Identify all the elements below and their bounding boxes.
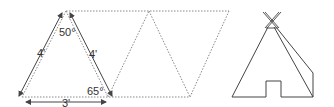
teepee-diagram [0,0,334,107]
pattern-right-edge [190,11,229,97]
teepee-right-side [274,27,313,97]
flat-pattern [22,11,229,97]
triangle2-left-edge [108,11,149,97]
base-label: 3' [62,98,70,107]
crossed-poles-icon [263,12,281,28]
teepee-left-side [232,27,268,97]
base-angle-label: 65° [87,86,104,97]
triangle2-right-edge [149,11,190,97]
teepee-flap-edge [276,27,313,73]
apex-angle-label: 50° [59,27,76,38]
right-side-label: 4' [89,49,97,60]
teepee-illustration [232,12,313,97]
teepee-base-with-door [232,81,313,97]
left-side-label: 4' [37,48,45,59]
